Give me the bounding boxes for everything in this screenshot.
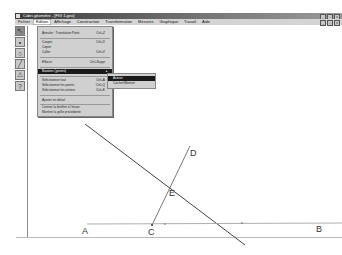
menu-item-undo[interactable]: Annuler : Translation PointCtrl+Z	[42, 31, 109, 36]
menu-separator	[40, 67, 110, 68]
menu-separator	[40, 38, 110, 39]
menu-item-delete[interactable]: EffacerCtrl+Suppr	[42, 60, 109, 65]
edit-menu-dropdown: Annuler : Translation PointCtrl+Z Couper…	[37, 26, 113, 117]
line-ab[interactable]	[87, 223, 342, 224]
point-label-d: D	[190, 148, 197, 158]
point-marker[interactable]	[164, 223, 166, 225]
point-label-c: C	[148, 227, 155, 237]
point-marker[interactable]	[241, 222, 243, 224]
menu-item-paste[interactable]: CollerCtrl+V	[42, 50, 109, 55]
menu-item-buttons[interactable]: Boutons (gestes)▸	[38, 69, 112, 74]
menu-separator	[40, 57, 110, 58]
point-label-e: E	[169, 188, 175, 198]
menu-separator	[40, 76, 110, 77]
submenu-item-hide-show[interactable]: Cacher/Montrer	[108, 81, 155, 86]
point-c-marker[interactable]	[151, 224, 153, 226]
point-label-a: A	[82, 226, 88, 236]
menu-item-adjust[interactable]: Ajuster en détail	[42, 98, 109, 103]
point-label-b: B	[316, 224, 322, 234]
menu-item-show-grid[interactable]: Montrer la grille précédente	[42, 110, 109, 115]
menu-separator	[40, 95, 110, 96]
line-diagonal[interactable]	[85, 124, 245, 245]
menu-item-select-integers[interactable]: Sélectionner les entiersCtrl+E	[42, 88, 109, 93]
buttons-submenu: Activer Cacher/Montrer	[107, 73, 156, 89]
line-cd[interactable]	[152, 146, 190, 225]
